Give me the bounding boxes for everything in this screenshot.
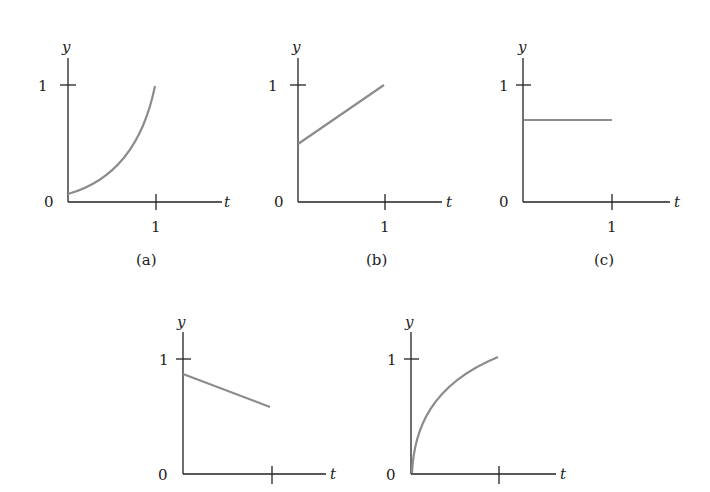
t-axis-label: t xyxy=(224,193,231,211)
graph-a: y t 0 1 1 (a) xyxy=(38,38,231,269)
caption-c: (c) xyxy=(594,251,614,269)
y-axis-label: y xyxy=(176,313,186,331)
origin-label: 0 xyxy=(499,193,509,211)
caption-b: (b) xyxy=(366,251,387,269)
y-one-label: 1 xyxy=(159,351,169,369)
origin-label: 0 xyxy=(158,466,168,484)
caption-a: (a) xyxy=(136,251,157,269)
t-axis-label: t xyxy=(560,465,567,483)
y-one-label: 1 xyxy=(499,77,509,95)
curve-exponential xyxy=(68,86,155,194)
y-one-label: 1 xyxy=(268,77,278,95)
t-axis-label: t xyxy=(674,193,681,211)
graph-d: y t 0 1 xyxy=(158,313,337,484)
origin-label: 0 xyxy=(274,193,284,211)
t-axis-label: t xyxy=(330,465,337,483)
t-one-label: 1 xyxy=(607,218,617,236)
y-axis-label: y xyxy=(61,38,71,56)
graphs-figure: y t 0 1 1 (a) y t 0 1 1 (b) y t 0 1 1 (c… xyxy=(0,0,710,492)
curve-linear-decreasing xyxy=(183,374,270,407)
t-axis-label: t xyxy=(446,193,453,211)
origin-label: 0 xyxy=(44,193,54,211)
t-one-label: 1 xyxy=(380,218,390,236)
curve-square-root xyxy=(412,357,498,473)
y-one-label: 1 xyxy=(387,351,397,369)
graph-c: y t 0 1 1 (c) xyxy=(499,38,681,269)
t-one-label: 1 xyxy=(151,218,161,236)
origin-label: 0 xyxy=(386,466,396,484)
graph-e: y t 0 1 xyxy=(386,313,567,484)
y-axis-label: y xyxy=(404,313,414,331)
y-axis-label: y xyxy=(517,38,527,56)
y-one-label: 1 xyxy=(38,77,48,95)
curve-linear-increasing xyxy=(298,85,384,144)
y-axis-label: y xyxy=(291,38,301,56)
graph-b: y t 0 1 1 (b) xyxy=(268,38,453,269)
